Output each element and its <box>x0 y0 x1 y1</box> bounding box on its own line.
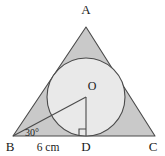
centre-label-o: O <box>88 79 97 93</box>
geometry-diagram-svg: A B C D O 30° 6 cm <box>0 0 165 156</box>
point-label-d: D <box>81 139 90 154</box>
geometry-figure: A B C D O 30° 6 cm <box>0 0 165 156</box>
vertex-label-a: A <box>81 2 91 17</box>
vertex-label-c: C <box>149 139 158 154</box>
angle-label-30: 30° <box>25 127 39 138</box>
vertex-label-b: B <box>6 139 15 154</box>
side-measure-label: 6 cm <box>37 141 60 153</box>
